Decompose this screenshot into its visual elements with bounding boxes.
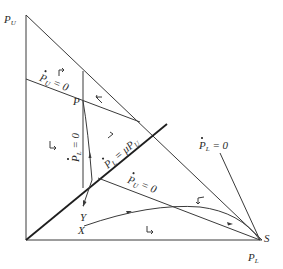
phase-arrow-bottom bbox=[147, 226, 153, 234]
phase-arrow-right bbox=[196, 197, 204, 204]
pl-dot-zero-right-label: PL = 0 bbox=[199, 140, 228, 153]
point-p-label: P bbox=[73, 96, 80, 107]
pl-axis-label: PL bbox=[248, 252, 259, 265]
arrowhead-p-y-up bbox=[89, 152, 92, 158]
phase-arrow-upper-left bbox=[59, 68, 64, 76]
arrowhead-near-s bbox=[227, 222, 233, 226]
trajectory-x-to-s bbox=[84, 206, 260, 240]
arrowhead-to-y bbox=[83, 200, 87, 207]
pu-axis-label: PU bbox=[4, 14, 16, 27]
point-x-label: X bbox=[78, 225, 85, 236]
phase-arrow-upper-right bbox=[96, 95, 102, 103]
diagram-canvas bbox=[0, 0, 283, 269]
pl-dot-zero-vertical-label: PL = 0 bbox=[70, 133, 83, 162]
phase-arrow-left-region bbox=[50, 141, 56, 150]
budget-line bbox=[26, 15, 262, 240]
phase-arrow-middle bbox=[108, 132, 113, 138]
point-s-label: S bbox=[264, 233, 270, 244]
phase-diagram: PU PL P S Y X PU = 0 PL = 0 PL = μPU PU … bbox=[0, 0, 283, 269]
point-y-label: Y bbox=[80, 212, 86, 223]
